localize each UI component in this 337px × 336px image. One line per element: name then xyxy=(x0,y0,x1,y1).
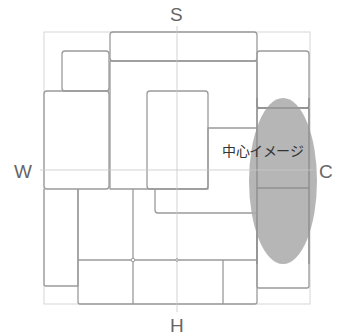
block-upper-left xyxy=(62,51,109,91)
junction-dot xyxy=(131,258,135,262)
block-lower-left xyxy=(44,189,78,286)
block-inner xyxy=(147,91,208,189)
center-image-label: 中心イメージ xyxy=(222,144,303,158)
block-left-big xyxy=(44,91,109,189)
block-top xyxy=(110,32,257,61)
compass-left-label: W xyxy=(14,162,32,181)
block-bottom-row xyxy=(78,260,257,304)
layout-diagram xyxy=(0,0,337,336)
center-image-highlight xyxy=(249,98,317,264)
compass-right-label: C xyxy=(319,162,333,181)
block-middle-band xyxy=(78,189,257,304)
compass-bottom-label: H xyxy=(170,316,184,335)
junction-dot xyxy=(176,259,179,262)
compass-top-label: S xyxy=(170,5,183,24)
